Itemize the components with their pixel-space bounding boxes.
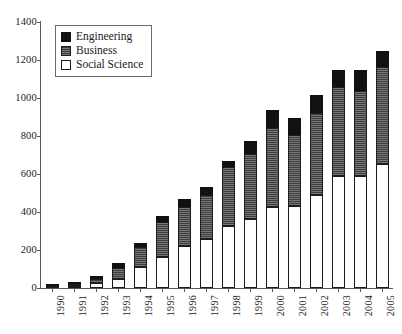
engineering-swatch [61, 32, 71, 42]
y-axis-tick-label: 200 [3, 245, 37, 256]
x-axis-tick-mark [316, 288, 317, 292]
bar-segment-business [288, 135, 301, 206]
bar-stack [134, 243, 147, 288]
x-axis-tick-mark [228, 288, 229, 292]
bar-segment-engineering [244, 141, 257, 154]
x-axis-tick-mark [140, 288, 141, 292]
y-axis-tick-label: 1200 [3, 55, 37, 66]
business-swatch [61, 46, 71, 56]
legend-item: Engineering [61, 30, 143, 44]
bar-segment-business [376, 67, 389, 164]
bar-segment-business [134, 247, 147, 267]
bar-segment-business [112, 268, 125, 278]
bar-segment-social-science [244, 219, 257, 288]
bar-segment-social-science [222, 226, 235, 288]
x-axis-tick-mark [250, 288, 251, 292]
y-axis: 0200400600800100012001400 [0, 0, 37, 334]
x-axis-tick-label: 1991 [78, 295, 88, 316]
x-axis-tick-mark [294, 288, 295, 292]
bar-segment-social-science [112, 279, 125, 289]
x-axis-tick-label: 1990 [56, 295, 66, 316]
bar-stack [266, 110, 279, 288]
y-axis-tick-label: 0 [3, 283, 37, 294]
bar-stack [200, 187, 213, 288]
chart-legend: EngineeringBusinessSocial Science [55, 25, 152, 77]
bar-segment-business [266, 128, 279, 207]
x-axis-tick-mark [96, 288, 97, 292]
bar-segment-social-science [354, 176, 367, 288]
x-axis-tick-mark [272, 288, 273, 292]
bar-segment-engineering [288, 118, 301, 135]
bar-segment-business [310, 113, 323, 195]
legend-item-label: Business [76, 45, 117, 57]
x-axis-tick-label: 1995 [166, 295, 176, 316]
x-axis-tick-label: 2004 [364, 295, 374, 316]
stacked-bar-chart: 0200400600800100012001400 19901991199219… [0, 0, 402, 334]
bar-segment-engineering [222, 161, 235, 168]
bar-segment-business [156, 222, 169, 256]
bar-segment-engineering [156, 216, 169, 223]
y-axis-tick-label: 1000 [3, 93, 37, 104]
bar-segment-engineering [200, 187, 213, 195]
x-axis-tick-label: 2001 [298, 295, 308, 316]
x-axis-tick-mark [338, 288, 339, 292]
legend-item: Business [61, 44, 143, 58]
x-axis-tick-label: 1998 [232, 295, 242, 316]
x-axis-tick-label: 1992 [100, 295, 110, 316]
bar-stack [178, 199, 191, 288]
x-axis-tick-label: 2003 [342, 295, 352, 316]
bar-stack [310, 95, 323, 288]
x-axis-tick-mark [382, 288, 383, 292]
bar-stack [222, 161, 235, 288]
x-axis-tick-mark [74, 288, 75, 292]
bar-stack [332, 70, 345, 288]
bar-segment-social-science [200, 239, 213, 288]
x-axis-tick-label: 1999 [254, 295, 264, 316]
x-axis-line [40, 288, 393, 289]
x-axis-tick-label: 1997 [210, 295, 220, 316]
bar-segment-social-science [376, 164, 389, 288]
legend-item-label: Social Science [76, 59, 143, 71]
bar-segment-social-science [288, 206, 301, 288]
y-axis-tick-label: 800 [3, 131, 37, 142]
bar-segment-social-science [178, 246, 191, 288]
bar-segment-business [354, 91, 367, 176]
bar-segment-engineering [266, 110, 279, 128]
bar-segment-business [222, 167, 235, 226]
x-axis-tick-mark [162, 288, 163, 292]
legend-item-label: Engineering [76, 31, 132, 43]
x-axis-tick-label: 1996 [188, 295, 198, 316]
x-axis-tick-label: 1993 [122, 295, 132, 316]
bar-segment-social-science [266, 207, 279, 288]
bar-segment-engineering [354, 70, 367, 92]
bar-segment-engineering [376, 51, 389, 67]
bar-segment-business [332, 87, 345, 176]
bar-segment-engineering [310, 95, 323, 113]
bar-segment-social-science [332, 176, 345, 288]
bar-segment-business [200, 195, 213, 239]
bar-stack [112, 263, 125, 288]
x-axis-tick-label: 2005 [386, 295, 396, 316]
bar-stack [376, 51, 389, 288]
social-science-swatch [61, 60, 71, 70]
x-axis-tick-mark [360, 288, 361, 292]
bar-segment-engineering [178, 199, 191, 208]
y-axis-tick-label: 400 [3, 207, 37, 218]
x-axis-tick-label: 2000 [276, 295, 286, 316]
x-axis-tick-mark [206, 288, 207, 292]
y-axis-tick-label: 1400 [3, 17, 37, 28]
bar-stack [156, 216, 169, 288]
x-axis-tick-mark [184, 288, 185, 292]
bar-segment-business [244, 154, 257, 219]
y-axis-tick-label: 600 [3, 169, 37, 180]
legend-item: Social Science [61, 58, 143, 72]
x-axis-tick-mark [52, 288, 53, 292]
x-axis-tick-label: 1994 [144, 295, 154, 316]
bar-stack [354, 70, 367, 288]
bar-stack [90, 276, 103, 288]
bar-segment-business [178, 207, 191, 246]
x-axis-tick-label: 2002 [320, 295, 330, 316]
bar-segment-social-science [156, 257, 169, 288]
bar-stack [288, 118, 301, 288]
x-axis-tick-mark [118, 288, 119, 292]
